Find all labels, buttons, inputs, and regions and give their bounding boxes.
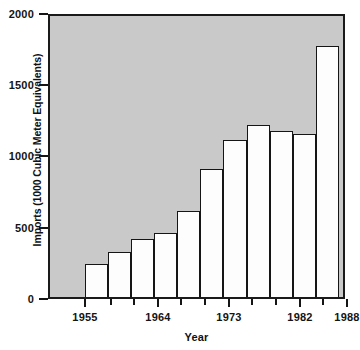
y-axis-tick-mark	[39, 13, 48, 15]
x-axis-tick-label: 1964	[145, 312, 170, 323]
y-axis-title: Imports (1000 Cubic Meter Equivalents)	[31, 30, 43, 270]
bar	[270, 131, 293, 299]
bar	[108, 252, 131, 299]
x-axis-tick-mark	[110, 299, 112, 305]
x-axis-tick-label: 1988	[334, 312, 359, 323]
bar	[131, 239, 154, 299]
bar	[316, 46, 339, 299]
plot-area	[48, 14, 345, 299]
y-axis-tick-label: 0	[28, 294, 34, 305]
x-axis-tick-label: 1973	[216, 312, 241, 323]
bar	[223, 140, 246, 299]
y-axis-tick-mark	[39, 298, 48, 300]
bar	[247, 125, 270, 299]
x-axis-title: Year	[48, 331, 345, 343]
bar	[200, 169, 223, 299]
x-axis-tick-mark	[275, 299, 277, 305]
x-axis-tick-mark	[133, 299, 135, 305]
bar	[293, 134, 316, 299]
y-axis-tick-label: 2000	[9, 9, 34, 20]
x-axis-tick-label: 1982	[287, 312, 312, 323]
x-axis-tick-mark	[228, 299, 230, 307]
x-axis-tick-mark	[299, 299, 301, 307]
x-axis-tick-mark	[322, 299, 324, 305]
x-axis-tick-label: 1955	[72, 312, 97, 323]
x-axis-tick-mark	[157, 299, 159, 307]
x-axis-tick-mark	[204, 299, 206, 305]
x-axis-tick-mark	[251, 299, 253, 305]
bar	[85, 264, 108, 299]
x-axis-tick-mark	[346, 299, 348, 307]
bar	[154, 233, 177, 299]
x-axis-tick-mark	[180, 299, 182, 305]
bar	[177, 211, 200, 299]
x-axis-tick-mark	[84, 299, 86, 307]
